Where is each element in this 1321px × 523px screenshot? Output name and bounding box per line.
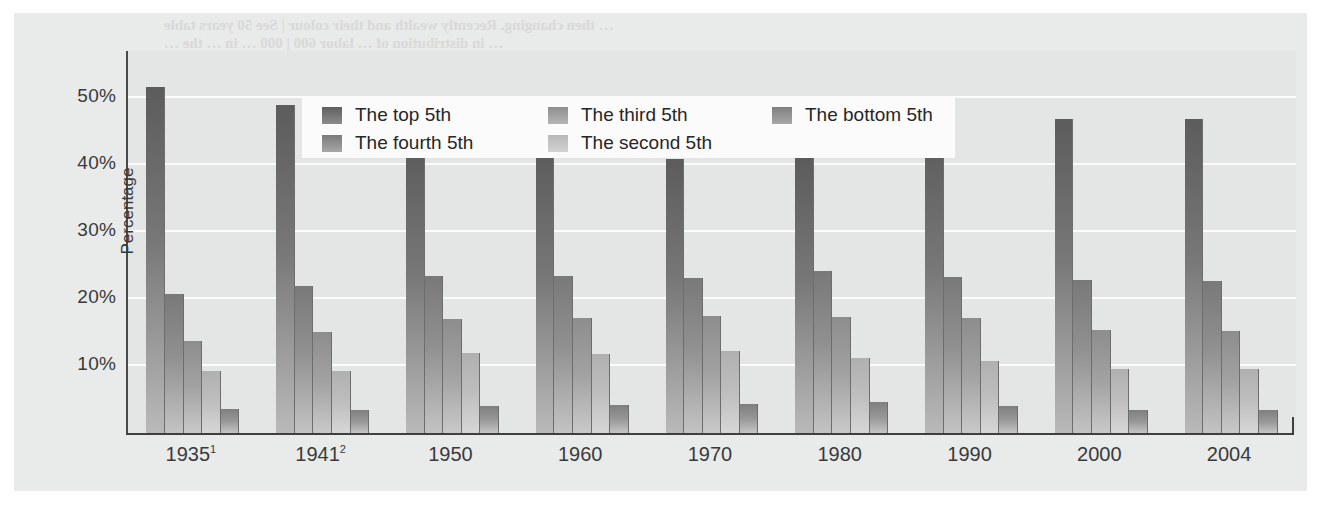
y-axis-tick-label: 20% bbox=[77, 286, 116, 308]
legend-item[interactable]: The top 5th bbox=[322, 104, 451, 126]
bar bbox=[1222, 331, 1241, 433]
bar bbox=[1055, 119, 1074, 433]
legend-item-label: The bottom 5th bbox=[805, 104, 933, 126]
bar bbox=[425, 276, 444, 433]
legend-swatch-icon bbox=[322, 107, 342, 124]
bar bbox=[1129, 410, 1148, 433]
bar bbox=[721, 351, 740, 433]
bar bbox=[592, 354, 611, 433]
footnote-marker: 2 bbox=[340, 443, 346, 455]
x-axis-tick-label: 1960 bbox=[515, 443, 645, 466]
bar bbox=[1259, 410, 1278, 433]
bar bbox=[462, 353, 481, 433]
bar bbox=[684, 278, 703, 433]
bar bbox=[666, 159, 685, 433]
bar bbox=[536, 152, 555, 433]
legend-item[interactable]: The second 5th bbox=[548, 132, 712, 154]
bar bbox=[221, 409, 240, 433]
y-axis-tick-label: 30% bbox=[77, 219, 116, 241]
bar bbox=[795, 158, 814, 433]
x-axis-tick-label: 1970 bbox=[645, 443, 775, 466]
bar bbox=[554, 276, 573, 433]
y-axis-tick-label: 40% bbox=[77, 152, 116, 174]
legend-item-label: The top 5th bbox=[355, 104, 451, 126]
bar bbox=[1240, 369, 1259, 433]
y-axis-tick-label: 50% bbox=[77, 85, 116, 107]
bar bbox=[573, 318, 592, 433]
y-axis-tick-label: 10% bbox=[77, 353, 116, 375]
bar bbox=[1111, 369, 1130, 433]
bar bbox=[406, 147, 425, 433]
x-axis-end-tick bbox=[1292, 417, 1294, 435]
x-axis-tick-label: 2004 bbox=[1164, 443, 1294, 466]
figure-panel: … then changing. Recently wealth and the… bbox=[14, 13, 1307, 491]
bar bbox=[832, 317, 851, 433]
bar-group bbox=[1185, 51, 1278, 433]
chart-legend: The top 5thThe fourth 5thThe third 5thTh… bbox=[302, 96, 955, 158]
legend-item-label: The fourth 5th bbox=[355, 132, 473, 154]
bar bbox=[1203, 281, 1222, 433]
bar bbox=[925, 137, 944, 433]
legend-item-label: The second 5th bbox=[581, 132, 712, 154]
bar bbox=[944, 277, 963, 433]
y-axis-title: Percentage bbox=[118, 131, 138, 291]
bar-group bbox=[1055, 51, 1148, 433]
bar bbox=[276, 105, 295, 433]
x-axis-tick-label: 2000 bbox=[1034, 443, 1164, 466]
bar bbox=[870, 402, 889, 433]
bar bbox=[184, 341, 203, 433]
x-axis-tick-label: 1950 bbox=[386, 443, 516, 466]
bar bbox=[1092, 330, 1111, 433]
x-axis-tick-label: 1990 bbox=[905, 443, 1035, 466]
bar bbox=[851, 358, 870, 433]
bar bbox=[740, 404, 759, 433]
bar bbox=[981, 361, 1000, 433]
scanned-page: … then changing. Recently wealth and the… bbox=[0, 0, 1321, 523]
legend-swatch-icon bbox=[548, 107, 568, 124]
income-distribution-bar-chart: 50%40%30%20%10% 193511941219501960197019… bbox=[126, 51, 1294, 461]
legend-item[interactable]: The third 5th bbox=[548, 104, 688, 126]
bar bbox=[962, 318, 981, 433]
bar bbox=[999, 406, 1018, 433]
x-axis-line bbox=[126, 433, 1294, 435]
legend-item[interactable]: The fourth 5th bbox=[322, 132, 473, 154]
showthrough-text-line: … then changing. Recently wealth and the… bbox=[164, 17, 614, 34]
bar bbox=[610, 405, 629, 433]
x-axis-tick-label: 19351 bbox=[126, 443, 256, 466]
bar bbox=[351, 410, 370, 433]
legend-item[interactable]: The bottom 5th bbox=[772, 104, 933, 126]
bar bbox=[1073, 280, 1092, 433]
x-axis-tick-label: 19412 bbox=[256, 443, 386, 466]
bar bbox=[814, 271, 833, 433]
showthrough-text-line: … in distribution of … labor 600 | 000 …… bbox=[164, 35, 503, 52]
bar bbox=[703, 316, 722, 433]
bar bbox=[146, 87, 165, 433]
bar bbox=[443, 319, 462, 433]
legend-swatch-icon bbox=[772, 107, 792, 124]
bar bbox=[332, 371, 351, 433]
bar bbox=[313, 332, 332, 433]
legend-swatch-icon bbox=[548, 135, 568, 152]
bar bbox=[202, 371, 221, 433]
bar bbox=[1185, 119, 1204, 433]
bar-group bbox=[146, 51, 239, 433]
legend-swatch-icon bbox=[322, 135, 342, 152]
footnote-marker: 1 bbox=[210, 443, 216, 455]
x-axis-tick-label: 1980 bbox=[775, 443, 905, 466]
bar bbox=[165, 294, 184, 433]
bar bbox=[480, 406, 499, 433]
bar bbox=[295, 286, 314, 433]
legend-item-label: The third 5th bbox=[581, 104, 688, 126]
